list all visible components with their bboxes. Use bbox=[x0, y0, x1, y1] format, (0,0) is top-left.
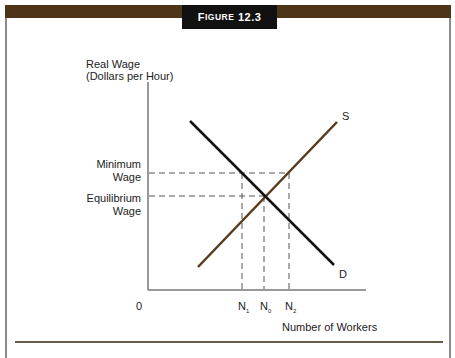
bottom-rule bbox=[15, 341, 443, 343]
origin-label: 0 bbox=[136, 300, 142, 312]
reference-lines bbox=[149, 173, 289, 289]
demand-curve bbox=[190, 121, 334, 265]
eq-wage-label-2: Wage bbox=[70, 205, 141, 217]
min-wage-label-2: Wage bbox=[80, 171, 141, 183]
y-axis-label-2: (Dollars per Hour) bbox=[86, 70, 173, 82]
n1-label: N1 bbox=[238, 300, 249, 317]
n2-label: N2 bbox=[285, 300, 296, 317]
n0-label: N0 bbox=[260, 300, 271, 317]
x-axis-label: Number of Workers bbox=[282, 321, 377, 333]
supply-label: S bbox=[342, 110, 349, 122]
min-wage-label-1: Minimum bbox=[80, 158, 141, 170]
wage-diagram bbox=[0, 0, 455, 358]
supply-curve bbox=[198, 122, 337, 267]
y-axis-label-1: Real Wage bbox=[86, 58, 140, 70]
demand-label: D bbox=[339, 268, 347, 280]
eq-wage-label-1: Equilibrium bbox=[70, 192, 141, 204]
